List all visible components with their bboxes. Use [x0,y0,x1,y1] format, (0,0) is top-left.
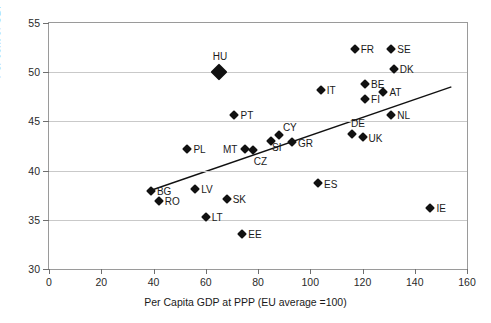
data-point-label: FI [371,93,380,104]
x-axis-tick [363,269,364,274]
data-point-label: NL [397,110,410,121]
y-axis-tick-label: 50 [28,66,40,78]
x-axis-tick [154,269,155,274]
x-axis-tick [206,269,207,274]
data-point-label: DE [351,118,365,129]
clipped-chart-title [0,0,491,8]
y-axis-title: Per cent of GDP [0,0,2,100]
data-point-label: SI [272,142,281,153]
scatter-chart: Per cent of GDP 303540455055020406080100… [0,0,491,323]
data-point-label: HU [213,51,227,62]
y-axis-tick-label: 55 [28,17,40,29]
y-gridline [49,121,467,122]
x-axis-tick [258,269,259,274]
y-axis-tick [43,121,49,122]
x-axis-tick-label: 40 [148,276,160,288]
plot-area: 303540455055020406080100120140160FRSEDKH… [48,22,468,270]
x-axis-tick [101,269,102,274]
data-point-label: AT [389,86,401,97]
data-point-label: PL [193,143,205,154]
y-axis-tick [43,23,49,24]
data-point-label: EE [248,228,261,239]
x-axis-tick [310,269,311,274]
data-point-label: GR [298,138,313,149]
data-point-label: FR [361,43,374,54]
x-axis-tick-label: 20 [95,276,107,288]
x-axis-tick-label: 60 [200,276,212,288]
y-axis-tick-label: 35 [28,214,40,226]
data-point-label: RO [165,196,180,207]
data-point-label: SE [397,43,410,54]
x-axis-title: Per Capita GDP at PPP (EU average =100) [0,296,491,308]
data-point-label: LT [212,211,223,222]
y-axis-tick [43,171,49,172]
x-axis-tick-label: 120 [354,276,372,288]
x-axis-tick [49,269,50,274]
y-axis-tick-label: 45 [28,115,40,127]
data-point-label: IT [327,84,336,95]
y-gridline [49,171,467,172]
data-point-label: DK [400,64,414,75]
y-axis-tick-label: 40 [28,165,40,177]
data-point-label: UK [369,133,383,144]
data-point-label: CY [283,122,297,133]
x-axis-tick-label: 100 [301,276,319,288]
data-point-label: CZ [254,155,267,166]
x-axis-tick-label: 0 [46,276,52,288]
x-axis-tick [467,269,468,274]
y-axis-tick-label: 30 [28,263,40,275]
y-axis-tick [43,220,49,221]
x-axis-tick-label: 140 [406,276,424,288]
data-point-label: PT [240,110,253,121]
x-axis-tick [415,269,416,274]
data-point-label: ES [324,179,337,190]
x-axis-tick-label: 80 [252,276,264,288]
y-gridline [49,220,467,221]
data-point-label: MT [223,143,237,154]
data-point-label: SK [233,194,246,205]
y-axis-tick [43,72,49,73]
x-axis-tick-label: 160 [458,276,476,288]
data-point-label: IE [436,202,445,213]
data-point-label: LV [201,184,213,195]
